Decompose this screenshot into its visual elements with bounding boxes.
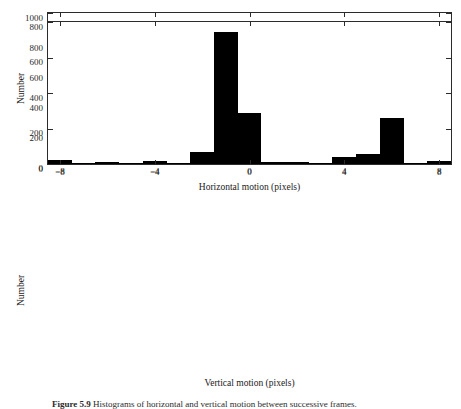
bar [167, 163, 191, 165]
x-tick-mark [439, 22, 440, 26]
bar [190, 152, 214, 164]
y-tick-mark [48, 58, 53, 59]
y-tick-mark [48, 129, 53, 130]
y-tick-label: 200 [30, 129, 44, 138]
bar [72, 163, 96, 165]
y-tick-mark [48, 22, 53, 23]
x-tick-label: 4 [342, 168, 347, 177]
y-axis-label-bottom: Number [16, 261, 27, 321]
y-tick-label: 800 [30, 43, 44, 52]
y-tick-mark [48, 93, 53, 94]
x-tick-label: 0 [247, 168, 252, 177]
x-tick-mark [439, 13, 440, 17]
x-tick-mark [60, 22, 61, 26]
x-tick-mark [155, 22, 156, 26]
bar [380, 118, 404, 165]
figure-caption-text: Histograms of horizontal and vertical mo… [93, 399, 357, 409]
y-axis-label-top: Number [16, 59, 27, 119]
figure-caption-label: Figure 5.9 [52, 399, 91, 409]
x-tick-mark [439, 160, 440, 164]
y-tick-label: 0 [39, 164, 44, 173]
bar [95, 162, 119, 164]
y-tick-mark [446, 13, 451, 14]
y-tick-label: 800 [30, 22, 44, 31]
y-tick-mark [446, 93, 451, 94]
y-tick-label: 600 [30, 73, 44, 82]
bar [238, 113, 262, 164]
x-tick-mark [250, 22, 251, 26]
x-tick-label: −8 [55, 168, 65, 177]
y-tick-label: 400 [30, 93, 44, 102]
bar [119, 163, 143, 165]
x-tick-mark [155, 13, 156, 17]
y-tick-label: 600 [30, 58, 44, 67]
x-tick-label: 8 [437, 168, 442, 177]
bar-series-vertical-motion [48, 22, 451, 164]
bar [309, 163, 333, 165]
chart-panel-vertical-motion [0, 196, 461, 392]
x-tick-mark [250, 13, 251, 17]
x-tick-mark [344, 22, 345, 26]
x-tick-mark [60, 160, 61, 164]
y-tick-mark [446, 129, 451, 130]
x-tick-label: −4 [150, 168, 160, 177]
y-tick-label: 400 [30, 103, 44, 112]
y-tick-mark [48, 164, 53, 165]
x-tick-mark [60, 13, 61, 17]
x-axis-label-bottom: Vertical motion (pixels) [47, 378, 452, 389]
bar [404, 163, 428, 165]
bar [356, 154, 380, 164]
x-axis-label-top: Horizontal motion (pixels) [47, 182, 452, 193]
bar [261, 162, 285, 164]
figure-caption: Figure 5.9 Histograms of horizontal and … [52, 399, 452, 409]
y-tick-mark [446, 164, 451, 165]
x-tick-mark [344, 13, 345, 17]
bar [285, 162, 309, 164]
bar [214, 32, 238, 164]
plot-area-vertical-motion: 0200400600800−8−4048 [47, 21, 452, 165]
y-tick-mark [446, 58, 451, 59]
figure-container: 02004006008001000−8−4048 Number Horizont… [0, 0, 461, 409]
x-tick-mark [250, 160, 251, 164]
y-tick-mark [48, 13, 53, 14]
y-tick-mark [446, 22, 451, 23]
x-tick-mark [344, 160, 345, 164]
x-tick-mark [155, 160, 156, 164]
